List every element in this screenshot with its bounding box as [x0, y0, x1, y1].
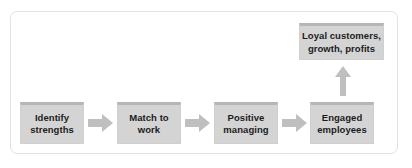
node-positive-managing-label: Positivemanaging — [217, 112, 275, 137]
arrow-up-icon-engaged-to-loyal — [335, 66, 351, 96]
node-identify-strengths-line1: Identify — [35, 112, 69, 123]
node-match-to-work[interactable]: Match towork — [117, 102, 181, 144]
node-identify-strengths[interactable]: Identifystrengths — [20, 102, 84, 144]
node-loyal-customers-line1: Loyal customers, — [302, 30, 381, 41]
arrow-right-icon-positive-to-engaged — [282, 114, 307, 132]
node-engaged-employees-line2: employees — [317, 124, 367, 135]
node-match-to-work-line1: Match to — [129, 112, 168, 123]
node-match-to-work-line2: work — [138, 124, 160, 135]
process-flow-figure: Loyal customers,growth, profits Identify… — [0, 0, 412, 168]
node-engaged-employees-line1: Engaged — [322, 112, 362, 123]
node-engaged-employees[interactable]: Engagedemployees — [310, 102, 374, 144]
node-match-to-work-label: Match towork — [120, 112, 178, 137]
arrow-right-icon-identify-to-match — [88, 114, 113, 132]
node-positive-managing-line1: Positive — [228, 112, 265, 123]
node-loyal-customers-line2: growth, profits — [308, 43, 375, 54]
node-positive-managing[interactable]: Positivemanaging — [214, 102, 278, 144]
node-identify-strengths-label: Identifystrengths — [23, 112, 81, 137]
node-positive-managing-line2: managing — [223, 124, 268, 135]
node-identify-strengths-line2: strengths — [30, 124, 74, 135]
node-engaged-employees-label: Engagedemployees — [313, 112, 371, 137]
node-loyal-customers-label: Loyal customers,growth, profits — [302, 30, 381, 55]
node-loyal-customers[interactable]: Loyal customers,growth, profits — [299, 23, 384, 60]
arrow-right-icon-match-to-positive — [185, 114, 210, 132]
